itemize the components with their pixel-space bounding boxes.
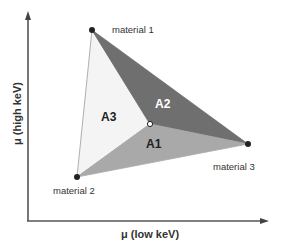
mixture-point [147, 121, 152, 126]
y-axis-arrow-icon [25, 11, 31, 20]
region-label-a3: A3 [101, 110, 117, 124]
vertex-material-1 [89, 27, 95, 33]
vertex-label-material-3: material 3 [213, 161, 255, 172]
region-label-a1: A1 [146, 137, 162, 151]
vertex-label-material-1: material 1 [112, 24, 154, 35]
x-axis-label: μ (low keV) [121, 228, 179, 240]
region-label-a2: A2 [155, 97, 171, 111]
x-axis-arrow-icon [260, 218, 269, 224]
y-axis-label: μ (high keV) [11, 82, 23, 145]
vertex-material-3 [245, 141, 251, 147]
vertex-label-material-2: material 2 [53, 185, 95, 196]
material-decomposition-diagram: A3 A2 A1 material 1 material 2 material … [0, 0, 281, 248]
vertex-material-2 [74, 174, 80, 180]
